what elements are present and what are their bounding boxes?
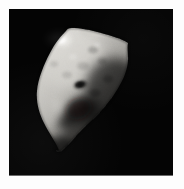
asteroid-illustration bbox=[9, 9, 173, 176]
limb-sliver-crest bbox=[105, 30, 127, 34]
asteroid-body-layer bbox=[9, 9, 173, 176]
image-page: Grayscale spacecraft photograph of an ir… bbox=[0, 0, 184, 189]
photographic-plate bbox=[9, 9, 173, 176]
limb-glow bbox=[43, 29, 75, 49]
film-grain bbox=[9, 9, 173, 176]
asteroid-body bbox=[9, 9, 173, 176]
plate-baseline bbox=[9, 175, 173, 176]
